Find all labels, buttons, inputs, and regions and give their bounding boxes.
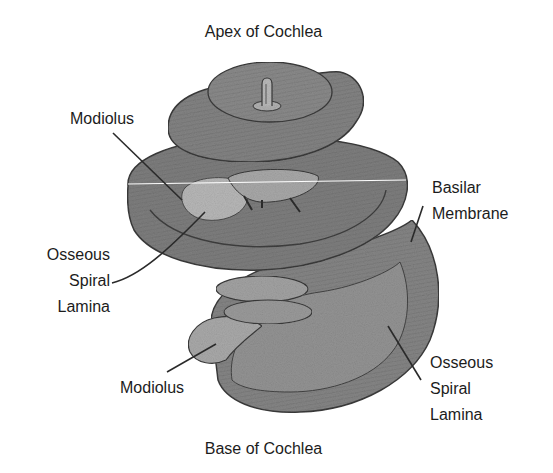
label-basilar-membrane: Basilar Membrane — [432, 175, 508, 227]
label-line: Spiral — [430, 376, 493, 402]
label-osseous-spiral-lamina-left: Osseous Spiral Lamina — [18, 242, 110, 320]
label-line: Osseous — [430, 350, 493, 376]
cochlea-diagram: Apex of Cochlea Modiolus Osseous Spiral … — [0, 0, 553, 473]
label-apex-of-cochlea: Apex of Cochlea — [0, 19, 527, 45]
label-osseous-spiral-lamina-right: Osseous Spiral Lamina — [430, 350, 493, 428]
label-line: Membrane — [432, 201, 508, 227]
label-line: Lamina — [430, 402, 493, 428]
label-line: Spiral — [18, 268, 110, 294]
label-modiolus-top: Modiolus — [70, 106, 134, 132]
label-line: Osseous — [18, 242, 110, 268]
label-line: Basilar — [432, 175, 508, 201]
label-base-of-cochlea: Base of Cochlea — [0, 436, 527, 462]
label-line: Lamina — [18, 294, 110, 320]
label-modiolus-bottom: Modiolus — [120, 375, 184, 401]
